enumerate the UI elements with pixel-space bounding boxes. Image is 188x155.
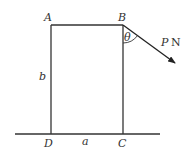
vertex-label-A: A: [43, 11, 52, 24]
width-label: a: [82, 135, 89, 148]
vertex-label-D: D: [43, 137, 53, 150]
vertex-label-B: B: [117, 11, 126, 24]
diagram-canvas: A B D C b a θ P N: [0, 0, 188, 155]
force-var-label: P: [160, 36, 169, 49]
angle-label: θ: [124, 31, 131, 44]
vertex-label-C: C: [118, 137, 127, 150]
force-unit-label: N: [171, 36, 181, 49]
height-label: b: [39, 70, 46, 83]
